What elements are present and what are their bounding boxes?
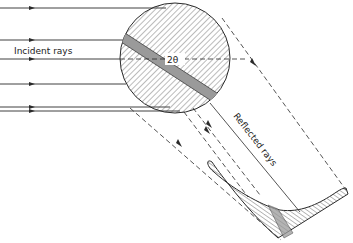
incident-rays-label: Incident rays: [14, 46, 73, 56]
reflected-ray-solid: [210, 103, 300, 212]
arrow-icon: [206, 120, 212, 128]
arrow-icon: [29, 105, 35, 109]
diffraction-diagram: 2θ Incident rays Reflected rays: [0, 0, 353, 243]
arrow-icon: [250, 58, 256, 66]
arrow-icon: [29, 82, 35, 86]
arrow-icon: [29, 57, 35, 61]
arrow-icon: [204, 126, 210, 134]
angle-label: 2θ: [167, 55, 179, 65]
arrow-icon: [29, 38, 35, 42]
reflected-rays-label: Reflected rays: [231, 111, 279, 168]
intensity-profile: [208, 161, 348, 238]
arrow-icon: [29, 6, 35, 10]
arrow-icon: [176, 139, 182, 147]
arrow-icon: [29, 109, 35, 113]
reflected-envelope-upper: [222, 18, 346, 190]
